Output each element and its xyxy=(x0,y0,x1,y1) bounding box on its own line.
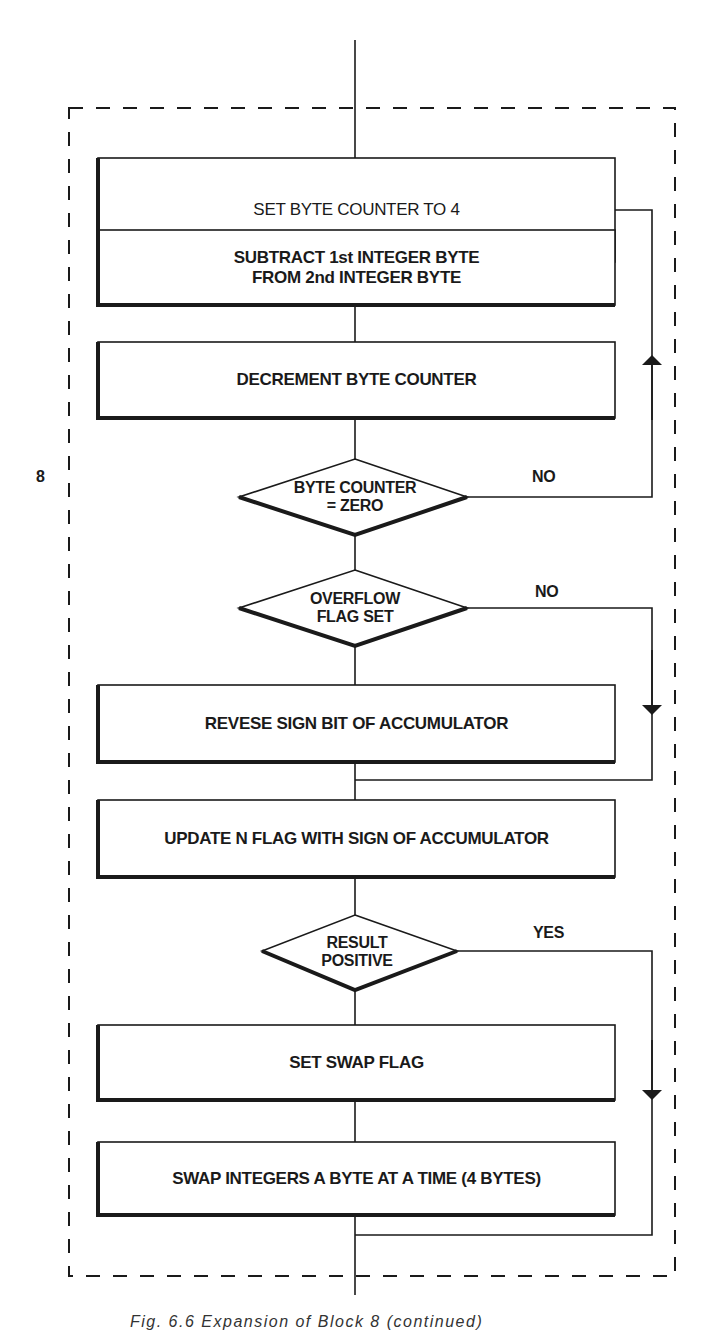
node-set-swap-flag: SET SWAP FLAG xyxy=(98,1025,615,1100)
node-subtract: SUBTRACT 1st INTEGER BYTE FROM 2nd INTEG… xyxy=(98,230,615,305)
node-update-n-flag: UPDATE N FLAG WITH SIGN OF ACCUMULATOR xyxy=(98,800,615,877)
node-reverse-sign: REVESE SIGN BIT OF ACCUMULATOR xyxy=(98,685,615,762)
edge-label-no-2: NO xyxy=(535,583,558,601)
decision-result-positive: RESULT POSITIVE xyxy=(262,920,452,984)
edge-label-no-1: NO xyxy=(532,468,555,486)
edge-label-yes: YES xyxy=(533,924,564,942)
decision-byte-counter-zero: BYTE COUNTER = ZERO xyxy=(255,465,455,529)
node-decrement: DECREMENT BYTE COUNTER xyxy=(98,342,615,418)
node-subtract-line1: SUBTRACT 1st INTEGER BYTE xyxy=(234,248,480,267)
node-subtract-line2: FROM 2nd INTEGER BYTE xyxy=(252,268,461,287)
decision-1-line1: BYTE COUNTER xyxy=(294,479,417,497)
decision-2-line2: FLAG SET xyxy=(317,608,394,626)
decision-3-line1: RESULT xyxy=(326,934,387,952)
figure-caption: Fig. 6.6 Expansion of Block 8 (continued… xyxy=(130,1313,580,1331)
decision-2-line1: OVERFLOW xyxy=(310,590,400,608)
block-number-marker: 8 xyxy=(36,468,45,486)
decision-1-line2: = ZERO xyxy=(327,497,383,515)
node-swap-integers: SWAP INTEGERS A BYTE AT A TIME (4 BYTES) xyxy=(98,1142,615,1215)
decision-overflow-flag: OVERFLOW FLAG SET xyxy=(255,576,455,640)
decision-3-line2: POSITIVE xyxy=(321,952,392,970)
